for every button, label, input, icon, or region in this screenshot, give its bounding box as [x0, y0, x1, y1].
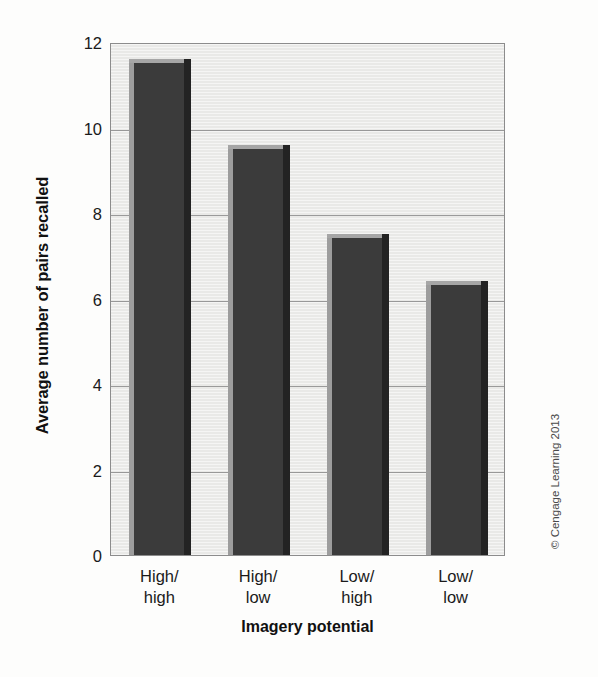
bar-face-facet: [134, 63, 184, 555]
bar: [426, 281, 488, 555]
y-axis-title: Average number of pairs recalled: [33, 96, 52, 516]
y-tick-label: 12: [66, 34, 102, 53]
bar-face-facet: [332, 238, 382, 555]
x-tick-label: Low/ high: [308, 566, 407, 608]
bar-right-facet: [382, 234, 389, 555]
x-tick-label: Low/ low: [406, 566, 505, 608]
bar: [129, 59, 191, 555]
x-axis-tick-labels: High/ high High/ low Low/ high Low/ low: [110, 566, 505, 616]
bar-face-facet: [233, 149, 283, 555]
copyright-notice: © Cengage Learning 2013: [549, 359, 561, 549]
y-tick-label: 6: [66, 290, 102, 309]
bar-chart-figure: Average number of pairs recalled 0 2 4 6…: [0, 0, 598, 677]
y-tick-label: 10: [66, 119, 102, 138]
x-tick-label: High/ low: [209, 566, 308, 608]
bar-right-facet: [283, 145, 290, 555]
y-tick-label: 2: [66, 461, 102, 480]
plot-area: [110, 43, 505, 556]
x-axis-title: Imagery potential: [110, 618, 505, 636]
bar-face-facet: [431, 285, 481, 555]
y-tick-label: 8: [66, 205, 102, 224]
bar-right-facet: [481, 281, 488, 555]
x-tick-label: High/ high: [110, 566, 209, 608]
bar-right-facet: [184, 59, 191, 555]
y-tick-label: 0: [66, 547, 102, 566]
bar: [228, 145, 290, 555]
y-axis-tick-labels: 0 2 4 6 8 10 12: [58, 43, 102, 556]
bar: [327, 234, 389, 555]
y-tick-label: 4: [66, 376, 102, 395]
